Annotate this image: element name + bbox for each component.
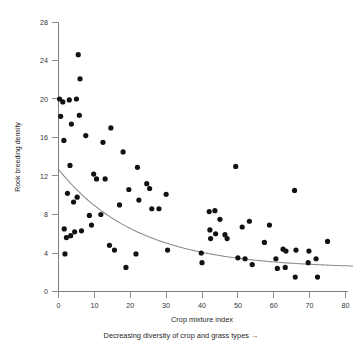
data-point <box>98 212 103 217</box>
x-tick-label: 20 <box>126 301 134 310</box>
data-point <box>136 197 141 202</box>
y-tick-label: 12 <box>40 172 48 181</box>
x-tick-20: 20 <box>126 292 134 311</box>
data-point <box>262 240 267 245</box>
data-point <box>283 265 288 270</box>
x-tick-label: 80 <box>342 301 350 310</box>
data-point <box>156 206 161 211</box>
data-point <box>123 265 128 270</box>
x-tick-label: 0 <box>57 301 61 310</box>
data-point <box>91 171 96 176</box>
data-point <box>87 213 92 218</box>
y-tick-label: 28 <box>40 18 48 27</box>
data-point <box>117 202 122 207</box>
data-point <box>149 206 154 211</box>
data-point <box>235 255 240 260</box>
data-point <box>267 222 272 227</box>
y-tick-label: 0 <box>44 287 48 296</box>
data-point <box>58 114 63 119</box>
data-point <box>293 248 298 253</box>
data-point <box>103 176 108 181</box>
data-point <box>76 52 81 57</box>
y-tick-label: 8 <box>44 210 48 219</box>
y-axis-ticks: 0 4 8 12 16 20 <box>40 18 59 296</box>
y-tick-12: 12 <box>40 172 59 181</box>
data-point <box>112 248 117 253</box>
x-tick-label: 60 <box>270 301 278 310</box>
data-point <box>293 274 298 279</box>
x-tick-label: 30 <box>162 301 170 310</box>
data-point <box>207 227 212 232</box>
y-tick-4: 4 <box>44 249 59 258</box>
data-point <box>306 248 311 253</box>
data-point <box>225 236 230 241</box>
data-point <box>233 164 238 169</box>
data-point <box>135 165 140 170</box>
data-point <box>240 224 245 229</box>
y-tick-20: 20 <box>40 95 59 104</box>
data-point <box>199 250 204 255</box>
data-point <box>164 192 169 197</box>
x-tick-label: 40 <box>198 301 206 310</box>
data-point <box>292 188 297 193</box>
data-point <box>212 208 217 213</box>
data-point <box>250 262 255 267</box>
x-tick-60: 60 <box>270 292 278 311</box>
data-point <box>247 219 252 224</box>
x-tick-30: 30 <box>162 292 170 311</box>
x-axis-ticks: 0 10 20 30 40 50 <box>57 292 350 311</box>
data-point <box>72 229 77 234</box>
data-point <box>242 256 247 261</box>
data-point <box>165 248 170 253</box>
x-tick-40: 40 <box>198 292 206 311</box>
y-tick-label: 16 <box>40 133 48 142</box>
data-point <box>71 199 76 204</box>
data-point <box>107 243 112 248</box>
data-point <box>147 186 152 191</box>
data-point <box>283 248 288 253</box>
data-point <box>306 260 311 265</box>
data-point <box>83 133 88 138</box>
y-tick-24: 24 <box>40 56 59 65</box>
data-point <box>77 113 82 118</box>
data-point <box>89 222 94 227</box>
x-tick-label: 10 <box>90 301 98 310</box>
data-point <box>213 231 218 236</box>
data-point <box>199 260 204 265</box>
data-point <box>77 76 82 81</box>
data-point <box>68 233 73 238</box>
data-point <box>100 140 105 145</box>
data-point <box>94 176 99 181</box>
x-tick-70: 70 <box>306 292 314 311</box>
y-tick-16: 16 <box>40 133 59 142</box>
data-point <box>62 226 67 231</box>
data-point <box>79 228 84 233</box>
data-point <box>67 163 72 168</box>
data-point <box>144 181 149 186</box>
y-tick-0: 0 <box>44 287 59 296</box>
data-point <box>65 191 70 196</box>
x-axis-title: Crop mixture index <box>171 315 233 324</box>
y-tick-label: 20 <box>40 95 48 104</box>
data-point <box>207 209 212 214</box>
x-tick-label: 70 <box>306 301 314 310</box>
y-tick-8: 8 <box>44 210 59 219</box>
data-point <box>74 96 79 101</box>
data-point <box>275 266 280 271</box>
y-tick-label: 4 <box>44 249 48 258</box>
data-point <box>67 97 72 102</box>
data-point <box>217 217 222 222</box>
data-point <box>208 236 213 241</box>
data-point <box>61 138 66 143</box>
y-tick-28: 28 <box>40 18 59 27</box>
data-point <box>69 121 74 126</box>
data-point <box>108 125 113 130</box>
data-point <box>126 187 131 192</box>
data-point <box>75 195 80 200</box>
x-tick-80: 80 <box>342 292 350 311</box>
data-point <box>133 251 138 256</box>
data-point <box>325 239 330 244</box>
x-tick-label: 50 <box>234 301 242 310</box>
data-points-group <box>57 52 330 280</box>
chart-figure: 0 4 8 12 16 20 <box>0 0 357 356</box>
